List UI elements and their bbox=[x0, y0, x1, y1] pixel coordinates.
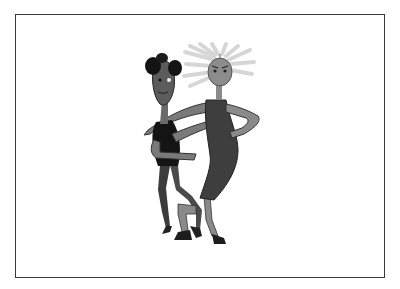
man-reaching-arm bbox=[172, 122, 208, 142]
man-left-foot bbox=[162, 226, 172, 234]
woman-right-leg bbox=[204, 196, 218, 236]
woman-dress bbox=[200, 100, 238, 200]
man-left-leg bbox=[158, 165, 170, 228]
woman-right-shoe bbox=[212, 234, 226, 244]
woman-left-shoe bbox=[174, 230, 192, 240]
man-head bbox=[145, 53, 182, 105]
woman-neck bbox=[216, 84, 222, 100]
dancing-couple-illustration bbox=[0, 0, 400, 289]
